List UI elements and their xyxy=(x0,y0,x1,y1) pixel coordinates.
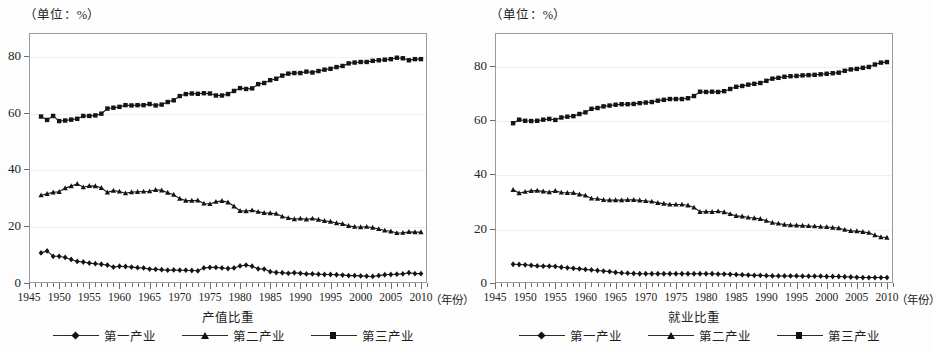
series-marker xyxy=(758,81,762,85)
series-marker xyxy=(383,58,387,62)
series-marker xyxy=(854,274,859,280)
series-marker xyxy=(794,74,798,78)
series-marker xyxy=(334,272,339,278)
series-marker xyxy=(69,257,74,263)
series-marker xyxy=(292,270,297,276)
series-marker xyxy=(153,103,157,107)
series-marker xyxy=(310,271,315,277)
series-marker xyxy=(195,268,200,274)
series-marker xyxy=(523,119,527,123)
series-marker xyxy=(286,71,290,75)
series-marker xyxy=(75,181,80,186)
series-marker xyxy=(879,275,884,281)
series-marker xyxy=(310,70,314,74)
series-marker xyxy=(619,270,624,276)
series-marker xyxy=(837,70,841,74)
series-marker xyxy=(770,273,775,279)
series-marker xyxy=(220,93,224,97)
series-marker xyxy=(849,67,853,71)
series-marker xyxy=(190,91,194,95)
series-marker xyxy=(93,113,97,117)
series-marker xyxy=(800,273,805,279)
series-marker xyxy=(316,271,321,277)
series-marker xyxy=(595,106,599,110)
series-marker xyxy=(262,266,267,272)
series-marker xyxy=(782,273,787,279)
series-marker xyxy=(559,264,564,270)
series-marker xyxy=(382,272,387,278)
series-marker xyxy=(286,270,291,276)
series-marker xyxy=(172,98,176,102)
series-marker xyxy=(407,270,412,276)
series-marker xyxy=(177,196,182,201)
series-marker xyxy=(292,71,296,75)
series-marker xyxy=(625,102,629,106)
series-marker xyxy=(565,265,570,271)
series-marker xyxy=(511,121,515,125)
series-marker xyxy=(69,117,73,121)
series-marker xyxy=(583,267,588,273)
series-marker xyxy=(93,261,98,267)
series-marker xyxy=(879,60,883,64)
series-marker xyxy=(547,117,551,121)
series-marker xyxy=(667,271,672,277)
series-marker xyxy=(517,117,521,121)
series-marker xyxy=(352,60,356,64)
series-marker xyxy=(873,62,877,66)
series-marker xyxy=(589,267,594,273)
series-marker xyxy=(607,269,612,275)
series-marker xyxy=(740,84,744,88)
series-marker xyxy=(613,103,617,107)
series-marker xyxy=(692,94,696,98)
series-marker xyxy=(219,198,224,203)
series-marker xyxy=(256,266,261,272)
series-marker xyxy=(836,274,841,280)
series-marker xyxy=(371,59,375,63)
series-marker xyxy=(716,271,721,277)
series-marker xyxy=(256,82,260,86)
series-marker xyxy=(553,188,558,193)
series-marker xyxy=(159,267,164,273)
series-marker xyxy=(806,273,811,279)
series-marker xyxy=(843,69,847,73)
series-marker xyxy=(698,271,703,277)
series-marker xyxy=(649,271,654,277)
series-marker xyxy=(752,82,756,86)
series-marker xyxy=(226,266,231,272)
series-marker xyxy=(643,271,648,277)
series-marker xyxy=(63,255,68,261)
series-marker xyxy=(668,97,672,101)
series-marker xyxy=(87,114,91,118)
series-marker xyxy=(511,261,516,267)
series-marker xyxy=(812,73,816,77)
series-marker xyxy=(250,207,255,212)
series-marker xyxy=(866,275,871,281)
chart-panel-employment: （单位：%） 020406080194519501955196019651970… xyxy=(466,0,932,351)
series-marker xyxy=(184,92,188,96)
series-marker xyxy=(577,266,582,272)
series-marker xyxy=(153,266,158,272)
series-marker xyxy=(376,273,381,279)
series-marker xyxy=(704,90,708,94)
series-marker xyxy=(704,271,709,277)
series-marker xyxy=(280,73,284,77)
series-marker xyxy=(535,263,540,269)
series-marker xyxy=(244,262,249,268)
series-marker xyxy=(413,271,418,277)
series-marker xyxy=(352,273,357,279)
series-marker xyxy=(553,118,557,122)
series-marker xyxy=(322,67,326,71)
series-marker xyxy=(625,270,630,276)
series-marker xyxy=(782,75,786,79)
series-marker xyxy=(238,86,242,90)
series-marker xyxy=(848,274,853,280)
series-marker xyxy=(601,104,605,108)
series-marker xyxy=(123,103,127,107)
series-marker xyxy=(75,259,80,265)
series-marker xyxy=(111,106,115,110)
series-marker xyxy=(298,71,302,75)
series-marker xyxy=(135,103,139,107)
series-marker xyxy=(226,92,230,96)
series-marker xyxy=(824,274,829,280)
series-marker xyxy=(39,114,43,118)
